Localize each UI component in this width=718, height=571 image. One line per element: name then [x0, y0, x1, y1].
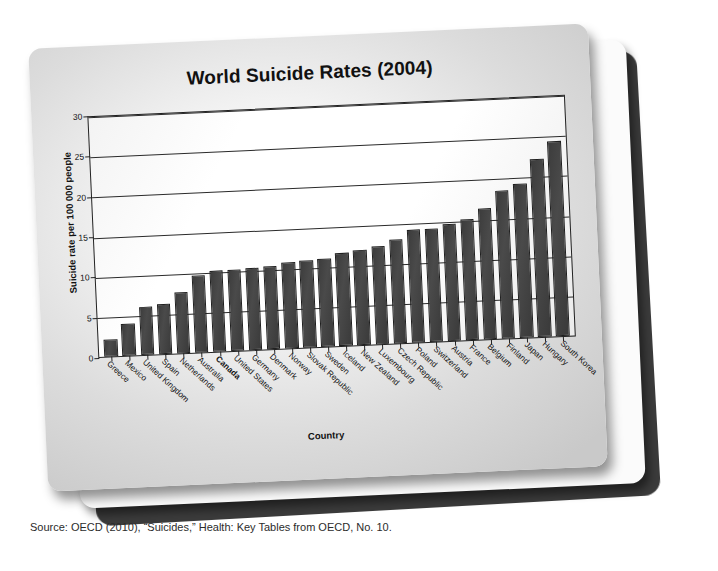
bar	[353, 250, 371, 346]
y-tick-mark	[93, 318, 98, 319]
source-caption: Source: OECD (2010), “Suicides,” Health:…	[30, 521, 392, 533]
chart-title: World Suicide Rates (2004)	[29, 49, 589, 96]
chart-card: World Suicide Rates (2004) Suicide rate …	[28, 24, 608, 492]
x-tick-label: South Korea	[559, 338, 600, 376]
y-tick-label: 20	[76, 192, 86, 202]
bar-series	[88, 96, 574, 357]
y-tick-mark	[87, 197, 92, 198]
bar	[227, 269, 244, 351]
bar	[104, 339, 118, 357]
bar	[335, 253, 353, 346]
bar	[245, 267, 262, 350]
plot-area	[87, 95, 575, 358]
bar	[281, 262, 298, 349]
y-tick-label: 10	[80, 273, 90, 283]
y-tick-label: 0	[88, 353, 93, 363]
bar	[263, 266, 280, 350]
bar	[157, 304, 173, 355]
bar	[299, 260, 316, 348]
y-tick-label: 25	[75, 152, 85, 162]
bar	[191, 275, 208, 353]
plot-wrapper: 051015202530	[87, 95, 575, 358]
bar	[121, 323, 136, 356]
bar	[371, 246, 389, 345]
bar	[209, 270, 226, 352]
paper-stack: World Suicide Rates (2004) Suicide rate …	[0, 0, 718, 571]
bar-chart: World Suicide Rates (2004) Suicide rate …	[28, 24, 608, 492]
y-tick-label: 5	[87, 313, 92, 323]
bar	[389, 239, 407, 344]
x-label-slot: South Korea	[555, 339, 577, 420]
bar	[139, 307, 155, 355]
y-tick-label: 30	[73, 112, 83, 122]
y-tick-label: 15	[78, 232, 88, 242]
bar	[317, 259, 334, 347]
bar	[174, 292, 190, 354]
